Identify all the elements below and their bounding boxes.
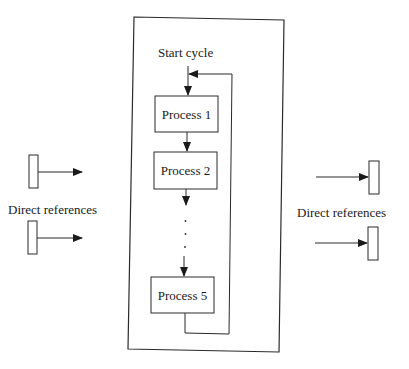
right-reference-block-1 [369, 161, 379, 194]
process-2-label: Process 2 [161, 163, 210, 178]
left-reference-block-1 [29, 155, 38, 188]
left-direct-references: Direct references [8, 155, 97, 254]
cycle-diagram: Start cycle Process 1 Process 2 Process … [0, 0, 409, 369]
start-cycle-label: Start cycle [158, 45, 213, 60]
process-5-label: Process 5 [158, 288, 207, 303]
right-direct-references: Direct references [297, 161, 386, 260]
ellipsis-dots [184, 220, 186, 248]
right-references-label: Direct references [297, 205, 386, 220]
left-reference-block-2 [28, 221, 37, 254]
process-1-label: Process 1 [162, 107, 211, 122]
left-references-label: Direct references [8, 202, 97, 217]
right-reference-block-2 [368, 227, 378, 260]
